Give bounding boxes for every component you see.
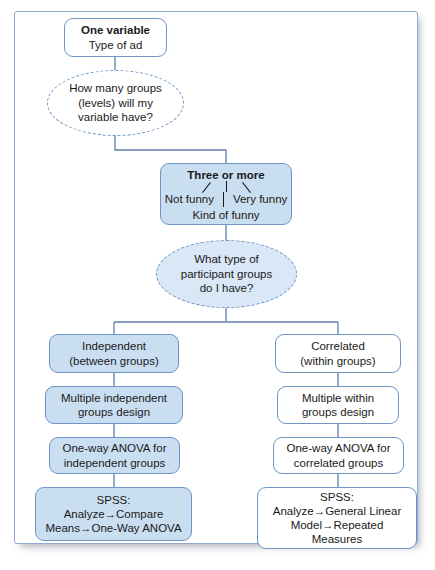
node-multi-independent-line2: groups design	[78, 405, 150, 419]
branch-line-center-icon	[226, 181, 227, 192]
node-anova-correlated-groups: One-way ANOVA for correlated groups	[273, 437, 404, 474]
node-three-or-more-title: Three or more	[187, 168, 264, 182]
node-multi-within-line1: Multiple within	[302, 391, 374, 405]
node-spss-right-line2: Analyze→General Linear	[273, 504, 402, 518]
flowchart-figure: One variable Type of ad How many groups …	[0, 0, 435, 570]
three-or-more-levels-row: Not funny Very funny	[164, 192, 288, 207]
node-anova-correlated-line1: One-way ANOVA for	[287, 441, 391, 455]
node-multiple-independent-groups-design: Multiple independent groups design	[45, 386, 183, 424]
node-spss-right-line1: SPSS:	[320, 490, 354, 504]
branch-line-right-icon	[242, 182, 251, 193]
node-multi-independent-line1: Multiple independent	[61, 391, 167, 405]
node-spss-left-line2: Analyze→Compare	[64, 507, 164, 521]
node-independent-line1: Independent	[82, 339, 146, 353]
node-one-variable-title: One variable	[81, 23, 150, 37]
node-anova-independent-groups: One-way ANOVA for independent groups	[49, 437, 180, 474]
branch-lines	[164, 182, 288, 192]
node-independent-line2: (between groups)	[69, 354, 159, 368]
question-groups-line2: (levels) will my	[78, 96, 153, 110]
node-question-how-many-groups: How many groups (levels) will my variabl…	[47, 70, 184, 136]
node-one-variable: One variable Type of ad	[64, 18, 167, 57]
question-participants-line1: What type of	[194, 252, 259, 266]
node-anova-correlated-line2: correlated groups	[294, 456, 384, 470]
question-groups-line1: How many groups	[69, 81, 162, 95]
node-correlated-line2: (within groups)	[300, 354, 375, 368]
node-correlated: Correlated (within groups)	[275, 334, 401, 373]
node-anova-independent-line2: independent groups	[64, 456, 166, 470]
node-independent: Independent (between groups)	[49, 334, 179, 373]
node-spss-left-line1: SPSS:	[97, 493, 131, 507]
level-not-funny: Not funny	[165, 192, 214, 206]
node-spss-right-line3: Model→Repeated	[291, 518, 384, 532]
question-participants-line3: do I have?	[200, 281, 254, 295]
branch-line-left-icon	[202, 182, 211, 193]
node-multi-within-line2: groups design	[302, 405, 374, 419]
connector-q1-to-threeormore	[115, 136, 226, 163]
node-three-or-more: Three or more Not funny Very funny Kind …	[160, 163, 292, 225]
question-groups-line3: variable have?	[78, 110, 153, 124]
node-multiple-within-groups-design: Multiple within groups design	[277, 386, 399, 424]
node-one-variable-line2: Type of ad	[89, 38, 143, 52]
node-anova-independent-line1: One-way ANOVA for	[63, 441, 167, 455]
question-participants-line2: participant groups	[181, 267, 272, 281]
node-spss-repeated-measures: SPSS: Analyze→General Linear Model→Repea…	[257, 487, 417, 549]
node-question-participant-groups: What type of participant groups do I hav…	[156, 240, 297, 308]
node-spss-left-line3: Means→One-Way ANOVA	[45, 521, 181, 535]
node-correlated-line1: Correlated	[311, 339, 365, 353]
node-spss-one-way-anova: SPSS: Analyze→Compare Means→One-Way ANOV…	[35, 487, 192, 541]
level-very-funny: Very funny	[233, 192, 287, 206]
level-kind-of-funny: Kind of funny	[192, 208, 259, 222]
node-spss-right-line4: Measures	[312, 532, 363, 546]
level-divider-icon	[223, 192, 224, 207]
